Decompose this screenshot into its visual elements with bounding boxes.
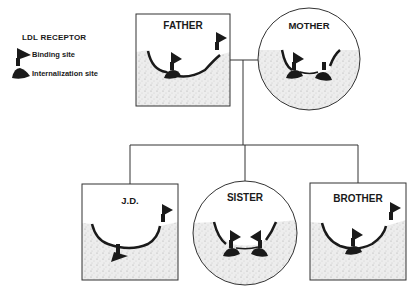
legend-item-binding-site: Binding site [32, 50, 75, 59]
legend-item-internalization-site: Internalization site [32, 69, 98, 78]
label-brother: BROTHER [310, 193, 406, 204]
legend-title: LDL RECEPTOR [22, 33, 86, 42]
binding-site-icon [16, 48, 31, 66]
internalization-site-icon [12, 68, 30, 79]
label-father: FATHER [136, 20, 230, 31]
pedigree-diagram [0, 0, 418, 292]
label-sister: SISTER [194, 192, 296, 203]
label-mother: MOTHER [258, 20, 360, 31]
label-jd: J.D. [82, 195, 178, 206]
